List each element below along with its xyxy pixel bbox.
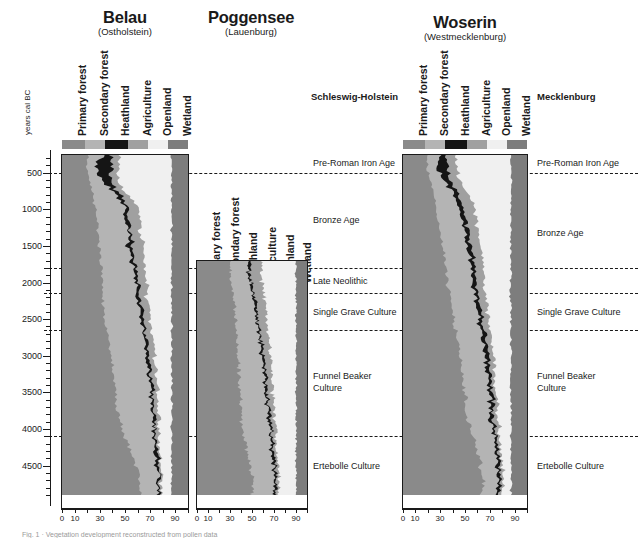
x-axis-box-woserin [402,495,528,509]
pollen-diagram-woserin [403,155,527,495]
y-axis-tick-major [43,392,50,393]
x-axis-label: 70 [478,515,502,523]
y-axis-tick-major [43,319,50,320]
y-axis-tick-minor [46,370,50,371]
period-label-left-funnel-beaker-culture: Funnel BeakerCulture [313,371,423,394]
period-label-right-pre-roman-iron-age: Pre-Roman Iron Age [537,158,641,169]
legend-swatch-primary-forest [403,140,425,149]
y-axis-tick-minor [46,458,50,459]
y-axis-tick-minor [46,312,50,313]
period-label-right-bronze-age: Bronze Age [537,228,641,239]
x-axis-label: 90 [503,515,527,523]
y-axis-tick-major [43,429,50,430]
y-axis-tick-minor [46,363,50,364]
y-axis-tick-minor [46,348,50,349]
y-axis-label: 1000 [8,205,42,214]
legend-strip-woserin [403,140,527,149]
region-header-mecklenburg: Mecklenburg [537,92,596,102]
x-axis-label: 90 [284,515,308,523]
y-axis-tick-minor [46,480,50,481]
y-axis-tick-minor [46,195,50,196]
figure-caption: Fig. 1 · Vegetation development reconstr… [22,531,217,538]
y-axis-label: 4000 [8,425,42,434]
y-axis-label: 500 [8,169,42,178]
y-axis-tick-minor [46,297,50,298]
category-label-openland: Openland [162,88,173,136]
y-axis-tick-minor [46,187,50,188]
x-axis-tick [527,509,528,513]
y-axis-tick-minor [46,239,50,240]
period-label-right-funnel-beaker-culture: Funnel BeakerCulture [537,371,641,394]
y-axis-label: 1500 [8,242,42,251]
x-axis-label: 70 [138,515,162,523]
pollen-diagram-svg-belau [62,155,188,495]
y-axis-tick-minor [46,444,50,445]
x-axis-line [61,509,188,510]
legend-swatch-secondary-forest [425,140,445,149]
y-axis-tick-minor [46,290,50,291]
x-axis-box-belau [61,495,189,509]
period-label-left-ertebolle-culture: Ertebolle Culture [313,461,423,472]
x-axis-label: 10 [403,515,427,523]
y-axis-label: 4500 [8,462,42,471]
y-axis-tick-minor [46,400,50,401]
legend-swatch-wetland [168,140,188,149]
site-title-belau: Belau [60,9,190,26]
yaxis-title: years cal BC [24,90,32,135]
x-axis-tick [188,509,189,513]
x-axis-label: 50 [113,515,137,523]
x-axis-line [196,509,307,510]
y-axis-tick-minor [46,341,50,342]
y-axis-line [50,150,51,506]
y-axis-tick-minor [46,261,50,262]
x-axis-label: 90 [163,515,187,523]
x-axis-label: 50 [453,515,477,523]
y-axis-tick-minor [46,253,50,254]
y-axis-tick-minor [46,217,50,218]
period-label-left-pre-roman-iron-age: Pre-Roman Iron Age [313,158,423,169]
category-label-primary-forest: Primary forest [418,65,429,136]
y-axis-tick-major [43,283,50,284]
y-axis-tick-minor [46,385,50,386]
y-axis-tick-minor [46,180,50,181]
site-title-poggensee: Poggensee [186,9,316,26]
legend-swatch-agriculture [467,140,487,149]
x-axis-label: 10 [63,515,87,523]
site-subtitle-woserin: (Westmecklenburg) [400,32,530,42]
legend-swatch-openland [487,140,507,149]
y-axis-label: 2000 [8,279,42,288]
x-axis-tick [307,509,308,513]
pollen-diagram-svg-poggensee [197,261,307,495]
category-label-heathland: Heathland [120,85,131,136]
period-label-left-bronze-age: Bronze Age [313,215,423,226]
y-axis-tick-minor [46,378,50,379]
category-label-wetland: Wetland [182,95,193,136]
legend-swatch-primary-forest [62,140,85,149]
site-title-woserin: Woserin [400,14,530,31]
category-label-primary-forest: Primary forest [77,65,88,136]
legend-swatch-openland [148,140,168,149]
y-axis-tick-minor [46,451,50,452]
x-axis-line [402,509,527,510]
site-subtitle-belau: (Ostholstein) [60,27,190,37]
x-axis-label: 30 [88,515,112,523]
category-label-agriculture: Agriculture [142,80,153,136]
y-axis-tick-minor [46,158,50,159]
y-axis-tick-minor [46,304,50,305]
x-axis-label: 30 [428,515,452,523]
y-axis-label: 3000 [8,352,42,361]
x-axis-label: 70 [262,515,286,523]
period-label-right-single-grave-culture: Single Grave Culture [537,307,641,318]
y-axis-tick-minor [46,414,50,415]
y-axis-label: 3500 [8,388,42,397]
y-axis-tick-minor [46,165,50,166]
x-axis-label: 10 [196,515,220,523]
legend-swatch-heathland [445,140,467,149]
period-label-left-late-neolithic: Late Neolithic [313,276,423,287]
y-axis-tick-major [43,209,50,210]
category-label-secondary-forest: Secondary forest [99,50,110,136]
region-header-schleswig-holstein: Schleswig-Holstein [311,92,398,102]
y-axis-tick-minor [46,275,50,276]
legend-swatch-wetland [507,140,527,149]
period-label-left-single-grave-culture: Single Grave Culture [313,307,423,318]
